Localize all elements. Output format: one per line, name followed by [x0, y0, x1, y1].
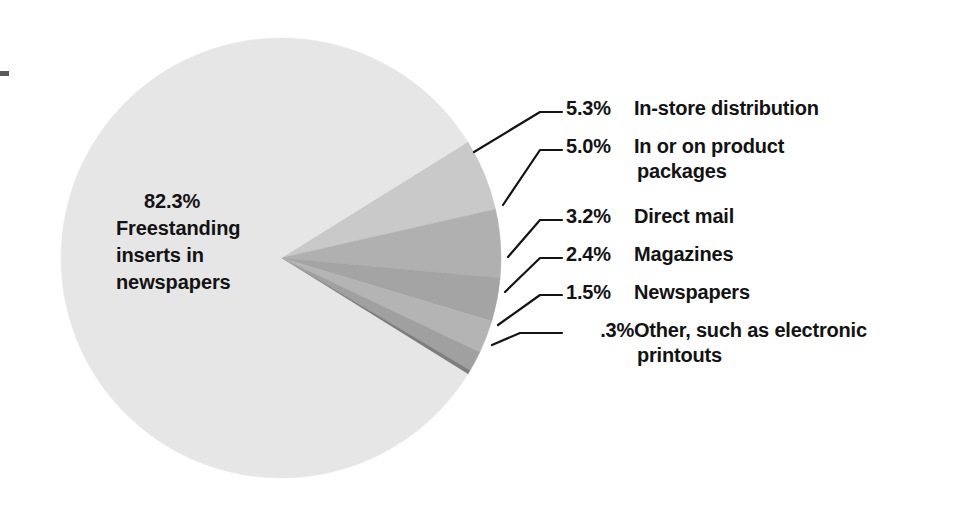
callout-label: In-store distribution: [634, 96, 819, 121]
callout-percent: .3%: [566, 318, 634, 343]
leader-line-product-packages: [503, 150, 562, 205]
callout-in-or-on-product-packages: 5.0%In or on product packages: [566, 134, 784, 184]
callout-percent: 5.0%: [566, 134, 634, 159]
callout-other-electronic-printouts: .3%Other, such as electronic printouts: [566, 318, 867, 368]
pie-slice-label-line-1: Freestanding: [116, 215, 316, 242]
callout-percent: 5.3%: [566, 96, 634, 121]
callout-label: Magazines: [634, 242, 733, 267]
callout-magazines: 2.4%Magazines: [566, 242, 733, 267]
callout-percent: 2.4%: [566, 242, 634, 267]
leader-line-newspapers: [498, 295, 562, 325]
callout-label: In or on product: [634, 134, 784, 159]
pie-slice-label-freestanding: 82.3% Freestanding inserts in newspapers: [116, 188, 316, 296]
callout-direct-mail: 3.2%Direct mail: [566, 204, 734, 229]
leader-line-in-store-distribution: [474, 112, 562, 152]
callout-label: Direct mail: [634, 204, 734, 229]
chart-canvas: 82.3% Freestanding inserts in newspapers…: [0, 0, 975, 506]
callout-label: Newspapers: [634, 280, 750, 305]
pie-slice-label-line-2: inserts in: [116, 242, 316, 269]
callout-newspapers: 1.5%Newspapers: [566, 280, 750, 305]
callout-label: Other, such as electronic: [634, 318, 867, 343]
leader-line-magazines: [505, 258, 562, 292]
pie-slice-label-percent: 82.3%: [116, 188, 316, 215]
callout-in-store-distribution: 5.3%In-store distribution: [566, 96, 819, 121]
leader-line-other: [492, 333, 562, 345]
callout-percent: 1.5%: [566, 280, 634, 305]
pie-slice-label-line-3: newspapers: [116, 269, 316, 296]
callout-label-continued: packages: [566, 159, 784, 184]
callout-label-continued: printouts: [566, 343, 867, 368]
leader-line-direct-mail: [508, 220, 562, 257]
callout-percent: 3.2%: [566, 204, 634, 229]
